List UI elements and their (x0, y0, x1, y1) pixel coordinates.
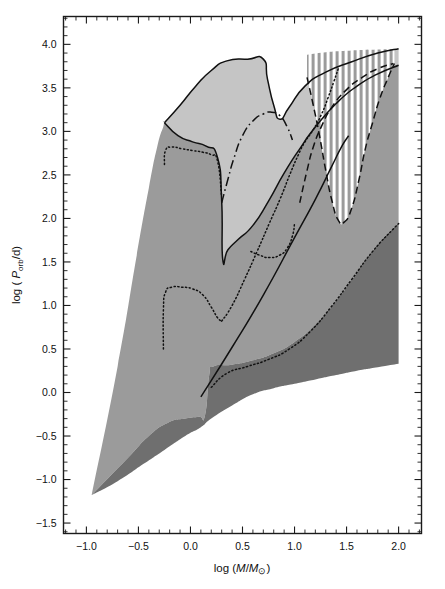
x-tick-label: 1.5 (339, 540, 354, 552)
y-axis-label-group: log ( Porb/d) (10, 246, 25, 304)
y-tick-label: −1.0 (36, 473, 57, 485)
x-tick-labels: −1.0−0.50.00.51.01.52.0 (76, 540, 406, 552)
y-tick-label: −1.5 (36, 517, 57, 529)
y-tick-label: 0.0 (42, 386, 57, 398)
y-tick-label: 3.0 (42, 125, 57, 137)
x-tick-label: −0.5 (128, 540, 149, 552)
y-tick-label: 4.0 (42, 38, 57, 50)
x-tick-label: 0.0 (183, 540, 198, 552)
y-tick-label: 1.5 (42, 256, 57, 268)
y-tick-label: 2.5 (42, 169, 57, 181)
y-tick-label: −0.5 (36, 430, 57, 442)
x-axis-label: log (M/M⊙) (214, 562, 271, 576)
x-tick-label: 2.0 (391, 540, 406, 552)
y-tick-label: 3.5 (42, 82, 57, 94)
y-tick-label: 1.0 (42, 299, 57, 311)
plot-regions (92, 49, 399, 496)
x-tick-label: 0.5 (235, 540, 250, 552)
x-tick-label: −1.0 (76, 540, 97, 552)
y-tick-labels: 4.03.53.02.52.01.51.00.50.0−0.5−1.0−1.5 (36, 38, 57, 529)
figure-container: −1.0−0.50.00.51.01.52.0 4.03.53.02.52.01… (0, 0, 445, 589)
chart-canvas: −1.0−0.50.00.51.01.52.0 4.03.53.02.52.01… (0, 0, 445, 589)
y-tick-label: 0.5 (42, 343, 57, 355)
x-tick-label: 1.0 (287, 540, 302, 552)
y-tick-label: 2.0 (42, 212, 57, 224)
y-axis-label: log ( Porb/d) (10, 246, 25, 304)
